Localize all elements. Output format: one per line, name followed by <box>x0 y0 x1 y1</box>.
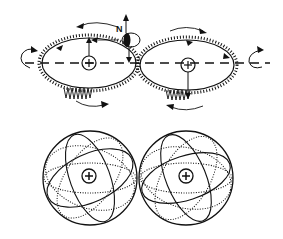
left-side-rotation-arrow-icon <box>21 46 38 68</box>
left-gear-long-teeth <box>64 88 92 99</box>
bottom-panel <box>37 126 239 230</box>
diagram-canvas: N <box>0 0 283 239</box>
left-sphere <box>37 127 144 230</box>
top-panel <box>21 14 270 110</box>
north-label: N <box>116 24 123 34</box>
top-right-curved-arrow-icon <box>170 28 207 35</box>
right-sphere-nucleus-icon <box>179 169 193 183</box>
right-sphere <box>134 126 238 230</box>
bottom-right-curved-arrow-icon <box>166 104 203 110</box>
top-left-curved-arrow-icon <box>76 23 118 29</box>
right-side-rotation-arrow-icon <box>249 46 264 68</box>
bottom-left-curved-arrow-icon <box>76 101 109 108</box>
left-up-arrow-icon <box>86 37 92 56</box>
right-nucleus-icon <box>181 58 195 72</box>
spin-particle-icon <box>122 14 140 63</box>
left-sphere-nucleus-icon <box>82 169 96 183</box>
right-down-arrow-icon <box>185 72 191 99</box>
